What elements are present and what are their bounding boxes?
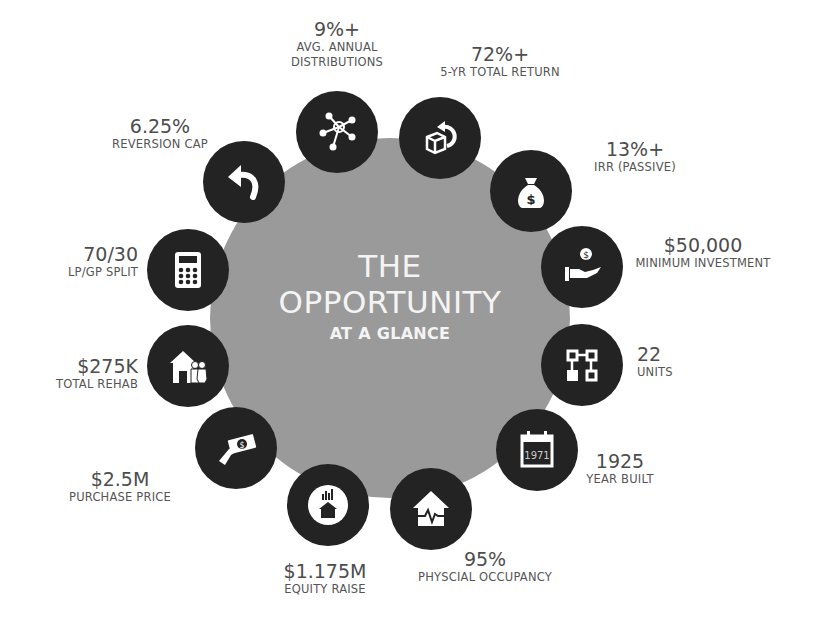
svg-text:$: $ — [583, 250, 589, 260]
metric-units: 22 UNITS — [637, 345, 717, 379]
hand-cash-icon: $ — [195, 407, 277, 489]
svg-text:1971: 1971 — [524, 450, 549, 461]
metric-purchase-price: $2.5M PURCHASE PRICE — [55, 470, 185, 504]
hand-coin-icon: $ — [541, 226, 623, 308]
metric-lp-gp-split: 70/30 LP/GP SPLIT — [40, 245, 138, 279]
calculator-icon — [147, 229, 229, 311]
metric-total-rehab: $275K TOTAL REHAB — [40, 357, 138, 391]
title-line-2: OPPORTUNITY — [210, 284, 570, 320]
house-family-icon — [147, 325, 229, 407]
svg-text:$: $ — [239, 441, 244, 450]
metric-total-return: 72%+ 5-YR TOTAL RETURN — [430, 45, 570, 79]
money-bag-icon: $ — [490, 150, 572, 232]
house-growth-icon — [287, 464, 369, 546]
svg-text:$: $ — [526, 192, 535, 207]
network-hub-icon — [296, 91, 378, 173]
metric-reversion-cap: 6.25% REVERSION CAP — [100, 117, 220, 151]
metric-irr: 13%+ IRR (PASSIVE) — [580, 140, 690, 174]
metric-occupancy: 95% PHYSCIAL OCCUPANCY — [400, 550, 570, 584]
metric-distributions: 9%+ AVG. ANNUAL DISTRIBUTIONS — [272, 20, 402, 68]
metric-equity-raise: $1.175M EQUITY RAISE — [250, 562, 400, 596]
calendar-icon: 1971 — [496, 409, 578, 491]
undo-arrow-icon — [203, 141, 285, 223]
title-line-1: THE — [210, 248, 570, 284]
house-heartbeat-icon — [390, 468, 472, 550]
metric-min-investment: $50,000 MINIMUM INVESTMENT — [628, 236, 778, 270]
box-return-icon — [399, 97, 481, 179]
title-subtitle: AT A GLANCE — [210, 324, 570, 343]
metric-year-built: 1925 YEAR BUILT — [570, 452, 670, 486]
unit-blocks-icon — [541, 324, 623, 406]
